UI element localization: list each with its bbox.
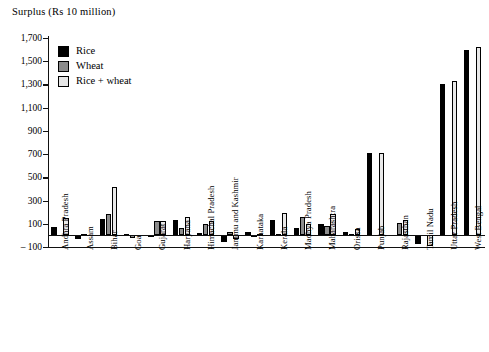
bar-rice-maharashtra (318, 224, 323, 235)
y-tick-label: – 100 (0, 242, 42, 252)
x-axis-label-andhra-pradesh: Andhra Pradesh (60, 193, 70, 250)
x-axis-label-orissa: Orissa (352, 227, 362, 250)
x-axis-label-goa: Goa (133, 235, 143, 250)
y-tick-label: 1,500 (0, 56, 42, 66)
x-axis-label-punjab: Punjab (376, 226, 386, 250)
y-tick-mark (43, 247, 48, 248)
y-tick-label: 1,700 (0, 33, 42, 43)
y-tick-label: 900 (0, 126, 42, 136)
bar-rice-west-bengal (464, 50, 469, 236)
y-tick-label: 1,300 (0, 79, 42, 89)
bar-rice-jammu-and-kashmir (221, 235, 226, 242)
y-tick-label: 700 (0, 149, 42, 159)
plot-area (48, 38, 485, 247)
bar-rice-punjab (367, 153, 372, 235)
y-tick-label: 1,100 (0, 103, 42, 113)
x-axis-label-karnataka: Karnataka (255, 214, 265, 250)
bar-rice-uttar-pradesh (440, 84, 445, 235)
x-axis-label-bihar: Bihar (109, 230, 119, 250)
x-axis-label-assam: Assam (85, 226, 95, 250)
x-axis-label-west-bengal: West Bengal (473, 205, 483, 250)
x-axis-label-uttar-pradesh: Uttar Pradesh (449, 202, 459, 250)
x-axis-label-tamil-nadu: Tamil Nadu (425, 208, 435, 250)
x-axis-label-himachal-pradesh: Himachal Pradesh (206, 186, 216, 250)
bar-rice-tamil-nadu (415, 235, 420, 243)
x-axis-label-rajasthan: Rajasthan (400, 215, 410, 250)
bar-rice-andhra-pradesh (51, 227, 56, 236)
x-axis-label-maharashtra: Maharashtra (327, 206, 337, 250)
bar-rice-kerala (270, 220, 275, 235)
x-axis-label-kerala: Kerala (279, 227, 289, 251)
bar-rice-haryana (173, 220, 178, 235)
bar-rice-wheat-bihar (112, 187, 117, 236)
y-tick-label: 100 (0, 219, 42, 229)
y-tick-label: 300 (0, 196, 42, 206)
x-axis-label-gujarat: Gujarat (157, 224, 167, 250)
y-tick-label: 500 (0, 172, 42, 182)
bar-chart: Surplus (Rs 10 million) – 10010030050070… (0, 0, 489, 352)
x-axis-label-madhya-pradesh: Madhya Pradesh (303, 191, 313, 250)
bar-rice-wheat-punjab (379, 153, 384, 235)
x-axis-label-haryana: Haryana (182, 220, 192, 250)
bar-rice-bihar (100, 219, 105, 235)
chart-axis-title: Surplus (Rs 10 million) (12, 6, 115, 17)
x-axis-label-jammu-and-kashmir: Jammu and Kashmir (230, 177, 240, 250)
